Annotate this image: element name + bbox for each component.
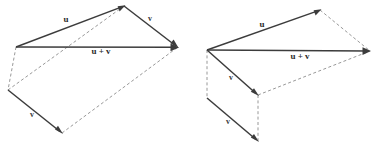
vector-addition-figure: u v u + v v u u + v	[0, 0, 382, 146]
diagram-canvas: u v u + v v u u + v	[0, 0, 382, 146]
vector-v-lower-shaft-right	[207, 98, 256, 140]
label-v-lower-left: v	[30, 110, 34, 119]
vector-v-lower-shaft	[8, 90, 60, 132]
vector-u-shaft-right	[207, 11, 319, 50]
vector-u-shaft	[16, 7, 123, 47]
vector-v-upper-shaft-right	[207, 50, 256, 94]
label-u-plus-v-left: u + v	[91, 46, 111, 56]
dashed-edge-left-side	[8, 47, 16, 90]
label-v-lower-right: v	[226, 117, 230, 126]
vector-u-arrowhead-right	[314, 9, 322, 15]
dashed-edge-top-right	[320, 10, 370, 51]
dashed-edge-bottom	[62, 47, 178, 133]
vector-u-plus-v-shaft-right	[207, 50, 367, 51]
label-v-upper-right: v	[229, 73, 233, 82]
vector-v-upper-shaft	[124, 6, 176, 46]
label-u-left: u	[63, 14, 68, 24]
label-u-plus-v-right: u + v	[290, 51, 310, 61]
left-panel-group: u v u + v v	[8, 5, 179, 134]
dashed-edge-mid-diagonal	[258, 51, 370, 95]
vector-v-lower-arrowhead	[55, 126, 63, 134]
label-v-upper-left: v	[148, 14, 152, 23]
label-u-right: u	[259, 19, 264, 29]
right-panel-group: u u + v v v	[207, 9, 371, 142]
